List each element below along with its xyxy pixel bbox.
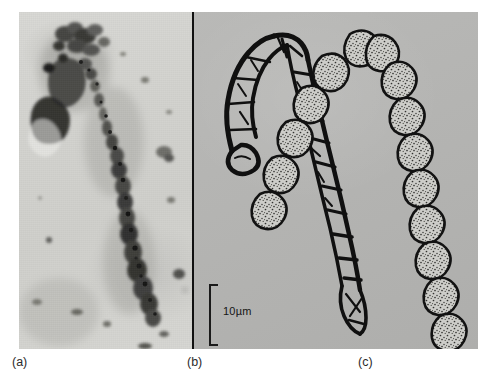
scale-bar: 10µm [209, 284, 269, 346]
caption-panel-b: (b) [187, 355, 202, 369]
diffuse-shadow-region [19, 32, 155, 346]
scanned-plate: 10µm [19, 12, 478, 349]
scale-bar-bracket [209, 284, 218, 346]
caption-panel-c: (c) [358, 355, 373, 369]
caption-panel-a: (a) [12, 355, 27, 369]
scale-bar-label: 10µm [223, 305, 252, 317]
micrograph-content [19, 12, 192, 349]
figure-plate: 10µm (a) (b) (c) [0, 0, 496, 384]
panel-a-micrograph [19, 12, 192, 349]
